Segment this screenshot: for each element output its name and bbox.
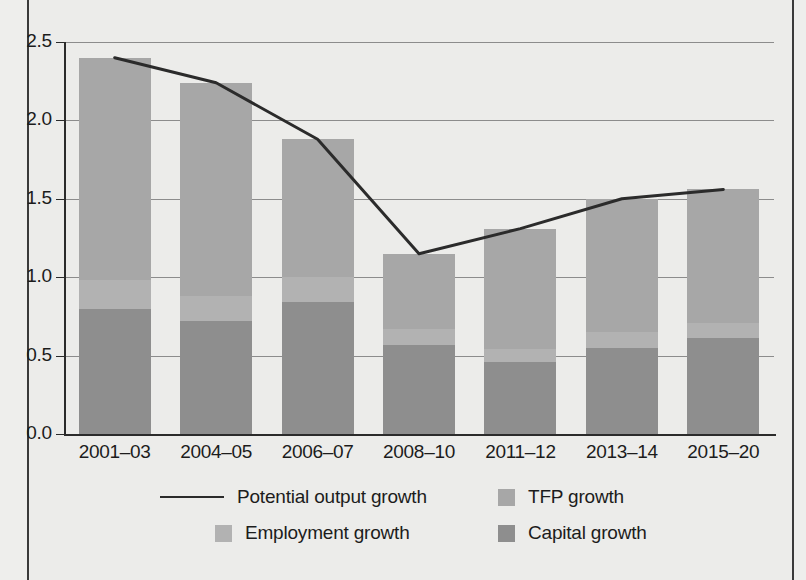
x-axis-tick-label: 2004–05 <box>161 441 271 463</box>
legend-label-tfp-growth: TFP growth <box>528 486 624 508</box>
legend-label-capital-growth: Capital growth <box>528 522 647 544</box>
legend-item-capital-growth: Capital growth <box>498 522 647 544</box>
potential-output-growth-line <box>64 42 774 434</box>
legend-swatch-tfp-icon <box>498 489 515 506</box>
y-axis-tick-label: 1.5 <box>4 187 52 209</box>
y-axis-labels: 0.00.51.01.52.02.5 <box>0 0 52 580</box>
legend-item-tfp-growth: TFP growth <box>498 486 624 508</box>
x-axis-line <box>64 434 776 436</box>
y-axis-tick-label: 2.0 <box>4 108 52 130</box>
legend-label-employment-growth: Employment growth <box>245 522 410 544</box>
x-axis-tick-label: 2015–20 <box>668 441 778 463</box>
legend-item-employment-growth: Employment growth <box>215 522 410 544</box>
legend-line-marker-icon <box>160 496 224 498</box>
x-axis-tick-label: 2008–10 <box>364 441 474 463</box>
legend-label-potential-output-growth: Potential output growth <box>237 486 427 508</box>
page-edge-right <box>792 0 794 580</box>
y-axis-tick-label: 0.0 <box>4 422 52 444</box>
chart-figure: 0.00.51.01.52.02.5 2001–032004–052006–07… <box>0 0 806 580</box>
x-axis-tick-label: 2011–12 <box>465 441 575 463</box>
legend-swatch-capital-icon <box>498 525 515 542</box>
y-axis-tick-label: 0.5 <box>4 344 52 366</box>
x-axis-tick-label: 2001–03 <box>60 441 170 463</box>
y-axis-tick-label: 2.5 <box>4 30 52 52</box>
y-axis-tick-label: 1.0 <box>4 265 52 287</box>
chart-legend: Potential output growth TFP growth Emplo… <box>160 486 690 558</box>
legend-item-potential-output-growth: Potential output growth <box>160 486 427 508</box>
x-axis-tick-label: 2006–07 <box>263 441 373 463</box>
x-axis-tick-label: 2013–14 <box>567 441 677 463</box>
legend-swatch-employment-icon <box>215 525 232 542</box>
